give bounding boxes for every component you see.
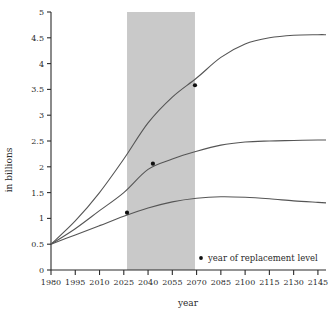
x-tick-label: 2055	[162, 278, 182, 287]
y-tick-label: 0.5	[31, 240, 44, 249]
x-tick-label: 2040	[138, 278, 158, 287]
y-tick-label: 5	[39, 8, 44, 17]
y-tick-label: 1	[39, 214, 44, 223]
replacement-level-dot-medium	[151, 162, 155, 166]
x-axis-title: year	[177, 298, 199, 308]
y-axis-ticks: 00.511.522.533.544.55	[31, 8, 51, 275]
x-tick-label: 2085	[211, 278, 231, 287]
x-axis-ticks: 1980199520102025204020552070208521002115…	[41, 270, 328, 287]
y-tick-label: 3.5	[31, 85, 44, 94]
chart-legend: year of replacement level	[199, 253, 318, 263]
x-tick-label: 1980	[41, 278, 61, 287]
population-projection-chart: 00.511.522.533.544.55 198019952010202520…	[0, 0, 330, 319]
legend-marker-dot	[199, 256, 203, 260]
y-tick-label: 3	[39, 111, 44, 120]
x-tick-label: 2025	[114, 278, 134, 287]
x-tick-label: 2130	[283, 278, 303, 287]
replacement-level-dot-high	[193, 83, 197, 87]
x-tick-label: 2115	[259, 278, 279, 287]
projection-band-rect	[127, 12, 195, 270]
x-tick-label: 2145	[308, 278, 328, 287]
y-axis-title: in billions	[4, 147, 14, 192]
legend-marker-label: year of replacement level	[207, 253, 318, 263]
y-tick-label: 2	[39, 163, 44, 172]
y-tick-label: 4.5	[31, 34, 44, 43]
y-tick-label: 4	[39, 60, 44, 69]
x-tick-label: 2100	[235, 278, 255, 287]
x-tick-label: 2070	[186, 278, 206, 287]
shaded-projection-band	[127, 12, 195, 270]
replacement-level-dot-low	[125, 211, 129, 215]
y-tick-label: 0	[39, 266, 44, 275]
x-tick-label: 1995	[65, 278, 85, 287]
y-tick-label: 2.5	[31, 137, 44, 146]
y-tick-label: 1.5	[31, 189, 44, 198]
chart-container: 00.511.522.533.544.55 198019952010202520…	[0, 0, 330, 319]
x-tick-label: 2010	[89, 278, 109, 287]
